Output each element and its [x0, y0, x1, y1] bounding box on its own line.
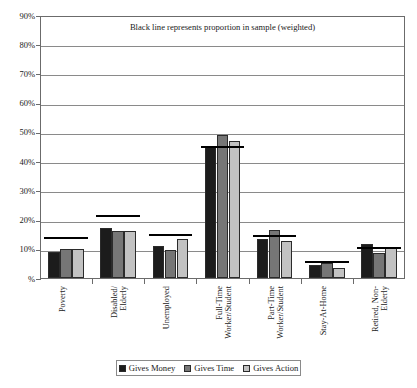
bar — [373, 253, 385, 278]
chart-legend: Gives MoneyGives TimeGives Action — [116, 360, 301, 376]
bar — [217, 135, 229, 278]
bar — [60, 249, 72, 278]
legend-label: Gives Action — [253, 364, 298, 373]
y-axis-tick-label: % — [2, 275, 35, 284]
legend-swatch-icon — [119, 365, 126, 372]
bar — [153, 246, 165, 278]
legend-item: Gives Time — [184, 364, 234, 373]
plot-area — [40, 16, 405, 279]
bar — [72, 249, 84, 278]
y-axis-tick-label: 70% — [2, 70, 35, 79]
x-axis-tick — [301, 279, 302, 284]
y-axis-tick-label: 20% — [2, 216, 35, 225]
bar-group — [48, 17, 84, 278]
sample-proportion-line — [253, 235, 297, 237]
legend-item: Gives Action — [243, 364, 298, 373]
bar — [257, 239, 269, 278]
legend-swatch-icon — [184, 365, 191, 372]
bar-group — [100, 17, 136, 278]
sample-proportion-line — [149, 234, 193, 236]
x-axis-tick — [249, 279, 250, 284]
bar — [309, 265, 321, 278]
legend-label: Gives Money — [129, 364, 176, 373]
bar — [124, 231, 136, 278]
y-axis-tick-label: 30% — [2, 187, 35, 196]
x-axis-category-label: Stay-At-Home — [319, 286, 335, 352]
x-axis-category-label: Retired, Non- Elderly — [371, 286, 387, 352]
bar-group — [361, 17, 397, 278]
x-axis-category-label: Full-Time Worker/Student — [215, 286, 231, 352]
sample-proportion-line — [357, 247, 401, 249]
x-axis-category-label: Disabled/ Elderly — [110, 286, 126, 352]
bar — [100, 228, 112, 278]
x-axis-category-label: Unemployed — [162, 286, 178, 352]
y-axis-tick-label: 50% — [2, 128, 35, 137]
x-axis-tick — [92, 279, 93, 284]
bar-group — [153, 17, 189, 278]
y-axis-tick-label: 40% — [2, 158, 35, 167]
bar — [333, 268, 345, 278]
sample-proportion-line — [305, 261, 349, 263]
bar — [321, 263, 333, 278]
x-axis-category-label: Poverty — [58, 286, 74, 352]
chart-figure: 90%80%70%60%50%40%30%20%10%% Black line … — [0, 0, 417, 388]
x-axis-labels: PovertyDisabled/ ElderlyUnemployedFull-T… — [40, 286, 405, 352]
bar — [281, 241, 293, 278]
x-axis-category-label: Part-Time Worker/Student — [267, 286, 283, 352]
sample-proportion-line — [44, 237, 88, 239]
bar-group — [257, 17, 293, 278]
x-axis-tick — [353, 279, 354, 284]
bar-group — [309, 17, 345, 278]
y-axis-tick-label: 10% — [2, 245, 35, 254]
sample-proportion-line — [96, 215, 140, 217]
sample-proportion-line — [201, 146, 245, 148]
bar — [205, 147, 217, 279]
x-axis-ticks — [40, 279, 405, 284]
y-axis-tick-label: 90% — [2, 12, 35, 21]
y-axis-tick-label: 80% — [2, 41, 35, 50]
y-axis-tick-label: 60% — [2, 99, 35, 108]
bar-group — [205, 17, 241, 278]
bar — [112, 231, 124, 278]
bar — [177, 239, 189, 278]
legend-label: Gives Time — [194, 364, 234, 373]
x-axis-tick — [144, 279, 145, 284]
x-axis-tick — [196, 279, 197, 284]
bar — [361, 244, 373, 278]
chart-title: Black line represents proportion in samp… — [40, 22, 405, 33]
bar — [48, 252, 60, 278]
bar — [385, 247, 397, 278]
bar — [165, 250, 177, 278]
legend-item: Gives Money — [119, 364, 176, 373]
legend-swatch-icon — [243, 365, 250, 372]
bar — [229, 141, 241, 278]
